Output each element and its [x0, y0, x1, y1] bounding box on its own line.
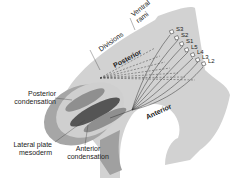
posterior-condensation-line1: Posterior — [28, 90, 56, 97]
anterior-condensation-label: Anterior condensation — [64, 145, 112, 160]
lateral-plate-line1: Lateral plate — [13, 141, 52, 148]
anterior-condensation-line1: Anterior — [76, 145, 101, 152]
posterior-condensation-label: Posterior condensation — [8, 90, 56, 105]
posterior-condensation-line2: condensation — [14, 98, 56, 105]
lateral-plate-mesoderm-label: Lateral plate mesoderm — [4, 141, 52, 156]
anterior-condensation-line2: condensation — [67, 153, 109, 160]
lateral-plate-line2: mesoderm — [19, 149, 52, 156]
root-label-l2: L2 — [208, 58, 215, 64]
